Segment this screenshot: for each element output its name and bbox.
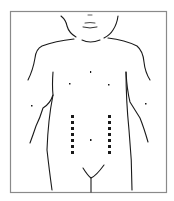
frame-border xyxy=(11,12,167,193)
sternum-mark xyxy=(90,71,91,73)
navel-mark xyxy=(90,139,92,141)
torso-diagram xyxy=(0,0,174,201)
right-nipple-mark xyxy=(108,84,110,86)
left-nipple-mark xyxy=(69,83,71,85)
left-arm-mark xyxy=(31,105,33,107)
right-arm-mark xyxy=(145,103,147,105)
